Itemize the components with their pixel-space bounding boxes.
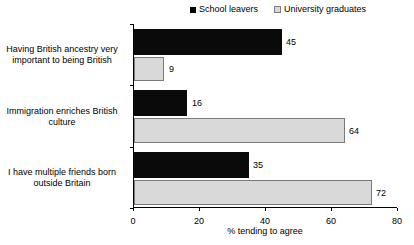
plot-area: 45 9 16 64 35 72 0 20 40 60 80 <box>133 24 397 208</box>
bar-school-leavers-3 <box>134 152 249 178</box>
legend-swatch-university-graduates-icon <box>274 6 281 13</box>
x-tick-label-80: 80 <box>392 216 402 226</box>
bar-value-35: 35 <box>253 161 263 170</box>
x-axis-title: % tending to agree <box>133 226 397 236</box>
category-label-3: I have multiple friends born outside Bri… <box>0 167 125 189</box>
category-label-1: Having British ancestry very important t… <box>0 44 125 66</box>
legend-swatch-school-leavers-icon <box>190 7 196 13</box>
bar-school-leavers-1 <box>134 29 282 55</box>
bar-university-graduates-3 <box>134 180 372 205</box>
x-tick-label-20: 20 <box>194 216 204 226</box>
bar-value-64: 64 <box>349 127 359 136</box>
legend-label-university-graduates: University graduates <box>284 5 366 14</box>
legend-entry-university-graduates: University graduates <box>274 5 366 14</box>
x-tick-label-0: 0 <box>130 216 135 226</box>
x-axis-tick <box>397 208 398 211</box>
x-tick-label-40: 40 <box>260 216 270 226</box>
x-tick-label-60: 60 <box>326 216 336 226</box>
bar-value-16: 16 <box>192 99 202 108</box>
legend-entry-school-leavers: School leavers <box>190 5 258 14</box>
x-axis-tick <box>265 208 266 211</box>
bar-chart: School leavers University graduates Havi… <box>0 0 414 245</box>
x-axis-tick <box>199 208 200 211</box>
bar-school-leavers-2 <box>134 90 187 116</box>
y-axis-tick <box>130 24 133 25</box>
bar-university-graduates-1 <box>134 57 164 81</box>
bar-value-45: 45 <box>286 38 296 47</box>
y-axis-tick <box>130 147 133 148</box>
legend-label-school-leavers: School leavers <box>199 5 258 14</box>
bar-university-graduates-2 <box>134 118 345 143</box>
x-axis-tick <box>133 208 134 211</box>
x-axis-tick <box>331 208 332 211</box>
y-axis-tick <box>130 85 133 86</box>
chart-legend: School leavers University graduates <box>190 5 366 14</box>
bar-value-9: 9 <box>169 65 174 74</box>
category-label-2: Immigration enriches British culture <box>0 106 125 128</box>
bar-value-72: 72 <box>376 189 386 198</box>
